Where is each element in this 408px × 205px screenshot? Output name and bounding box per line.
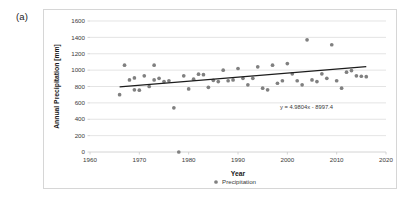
y-tick-label: 200 [75,132,86,139]
scatter-point [137,88,141,92]
scatter-point [152,63,156,67]
x-tick-label: 1970 [132,156,146,163]
y-tick-label: 1000 [71,66,85,73]
data-points-group [118,38,368,154]
legend-label: Precipitation [222,178,257,185]
legend-group: Precipitation [214,178,256,185]
x-axis-title: Year [231,170,246,177]
scatter-point [320,72,324,76]
scatter-point [340,86,344,90]
scatter-point [231,78,235,82]
legend-marker-icon [214,180,218,184]
x-tick-label: 2010 [330,156,344,163]
scatter-point [364,75,368,79]
y-tick-label: 0 [82,148,86,155]
figure-panel: (a) 02004006008001000120014001600 196019… [0,0,408,205]
scatter-point [182,74,186,78]
y-axis-title: Annual Precipitation [mm] [53,44,61,129]
scatter-point [118,93,122,97]
scatter-point [123,63,127,67]
scatter-point [330,43,334,47]
scatter-point [202,73,206,77]
scatter-point [221,68,225,72]
scatter-point [251,76,255,80]
annotations-group: y = 4.9804x - 8997.4 [280,104,334,110]
y-tick-labels-group: 02004006008001000120014001600 [71,17,85,155]
y-tick-label: 600 [75,99,86,106]
scatter-point [207,85,211,89]
scatter-point [142,74,146,78]
x-tick-label: 1960 [83,156,97,163]
scatter-point [359,74,363,78]
trendline [120,67,367,87]
scatter-point [152,78,156,82]
scatter-point [355,74,359,78]
scatter-point [261,86,265,90]
scatter-point [305,38,309,42]
trendline-equation-label: y = 4.9804x - 8997.4 [280,104,334,110]
x-tick-label: 2020 [379,156,393,163]
scatter-point [236,67,240,71]
y-tick-label: 1200 [71,50,85,57]
scatter-point [172,106,176,110]
scatter-point [216,80,220,84]
scatter-point [350,69,354,73]
scatter-point [167,79,171,83]
y-tick-label: 400 [75,115,86,122]
scatter-point [197,72,201,76]
scatter-point [300,83,304,87]
x-tick-labels-group: 1960197019801990200020102020 [83,156,393,163]
scatter-point [345,70,349,74]
scatter-point [285,62,289,66]
axis-titles-group: Annual Precipitation [mm]Year [53,44,246,177]
scatter-point [256,65,260,69]
x-tick-label: 1980 [182,156,196,163]
scatter-point [177,150,181,154]
y-tick-label: 1400 [71,34,85,41]
scatter-point [325,76,329,80]
scatter-point [281,79,285,83]
scatter-point [133,88,137,92]
scatter-point [276,81,280,85]
scatter-point [226,79,230,83]
precipitation-scatter-chart: 02004006008001000120014001600 1960197019… [44,10,398,190]
scatter-point [335,79,339,83]
scatter-point [310,78,314,82]
chart-frame: 02004006008001000120014001600 1960197019… [43,9,397,189]
scatter-point [315,80,319,84]
y-tick-label: 1600 [71,17,85,24]
trendline-group [120,67,367,87]
scatter-point [133,76,137,80]
scatter-point [128,78,132,82]
scatter-point [271,63,275,67]
scatter-point [295,79,299,83]
x-tick-label: 1990 [231,156,245,163]
panel-label: (a) [16,11,28,22]
x-tick-label: 2000 [280,156,294,163]
scatter-point [187,87,191,91]
scatter-point [157,76,161,80]
y-tick-label: 800 [75,83,86,90]
scatter-point [266,88,270,92]
scatter-point [246,83,250,87]
